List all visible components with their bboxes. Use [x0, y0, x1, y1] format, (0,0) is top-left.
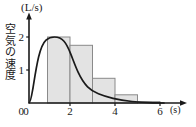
x-tick-label-2: 2 — [63, 105, 77, 117]
y-tick-label-2: 2 — [12, 31, 24, 43]
y-tick-label-1: 1 — [12, 64, 24, 76]
x-axis-unit-label: (s) — [170, 104, 181, 116]
histogram-bar — [48, 37, 71, 103]
x-tick-label-4: 4 — [108, 105, 122, 117]
x-tick-label-6: 6 — [153, 105, 167, 117]
chart-figure: (L/s) 空 気 の 速 度 2 1 0 0 2 4 6 (s) — [0, 0, 196, 127]
histogram-bar — [70, 45, 93, 103]
histogram-bar — [93, 78, 116, 103]
x-tick-label-0: 0 — [19, 105, 33, 117]
histogram-bars — [48, 37, 161, 103]
y-axis — [26, 13, 32, 104]
y-axis-unit-label: (L/s) — [21, 0, 42, 14]
